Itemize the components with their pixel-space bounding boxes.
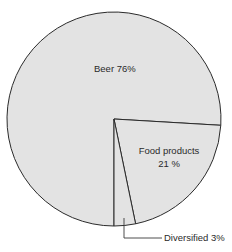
label-food-products-name: Food products	[134, 144, 204, 157]
label-food-products: Food products 21 %	[134, 144, 204, 170]
label-diversified: Diversified 3%	[164, 231, 225, 244]
label-beer: Beer 76%	[94, 62, 136, 75]
label-food-products-value: 21 %	[134, 157, 204, 170]
pie-chart	[0, 0, 232, 252]
